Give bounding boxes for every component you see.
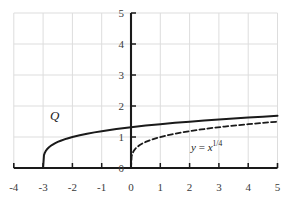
function-graph-figure: -4-3-2-1012345 012345 Q y = x1/4	[0, 0, 300, 203]
x-tick-label: 3	[216, 181, 222, 193]
y-tick-label: 0	[119, 162, 125, 174]
x-tick-label: -1	[97, 181, 106, 193]
equation-exponent: 1/4	[213, 139, 223, 148]
equation-equals: =	[196, 141, 208, 153]
x-tick-label: -3	[39, 181, 49, 193]
x-tick-label: -4	[9, 181, 19, 193]
plot-background	[0, 0, 300, 203]
x-tick-label: 1	[158, 181, 164, 193]
x-tick-label: 2	[187, 181, 193, 193]
x-tick-label: 0	[128, 181, 134, 193]
y-tick-label: 3	[119, 69, 125, 81]
x-tick-label: 5	[275, 181, 281, 193]
x-tick-label: -2	[68, 181, 77, 193]
y-tick-label: 4	[119, 38, 125, 50]
curve-label-Q: Q	[50, 108, 60, 123]
x-tick-label: 4	[245, 181, 251, 193]
curve-label-Q-group: Q	[50, 108, 60, 123]
y-tick-label: 5	[119, 7, 125, 19]
y-tick-label: 2	[119, 100, 125, 112]
y-tick-label: 1	[119, 131, 125, 143]
